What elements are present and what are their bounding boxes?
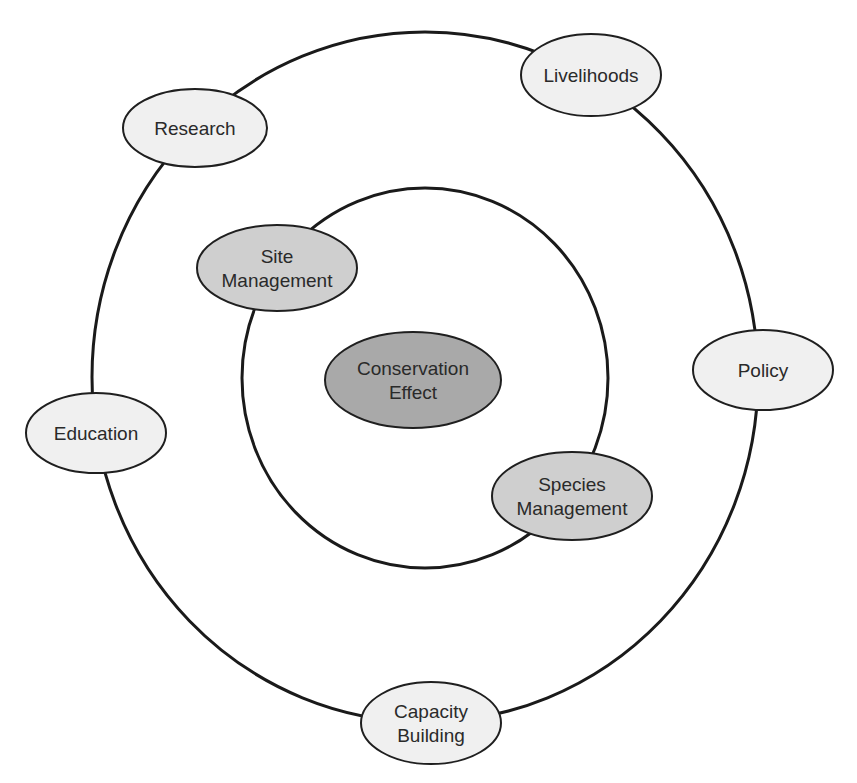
node-policy: Policy xyxy=(693,330,833,410)
site-management-label: Management xyxy=(222,270,334,291)
site-management-ellipse xyxy=(197,225,357,311)
node-conservation-effect: ConservationEffect xyxy=(325,332,501,428)
conservation-diagram: ResearchLivelihoodsPolicyEducationCapaci… xyxy=(0,0,857,783)
node-research: Research xyxy=(123,89,267,167)
livelihoods-label: Livelihoods xyxy=(543,65,638,86)
node-education: Education xyxy=(26,393,166,473)
species-management-label: Species xyxy=(538,474,606,495)
education-label: Education xyxy=(54,423,139,444)
research-label: Research xyxy=(154,118,235,139)
node-livelihoods: Livelihoods xyxy=(521,34,661,116)
capacity-building-label: Capacity xyxy=(394,701,468,722)
node-capacity-building: CapacityBuilding xyxy=(361,682,501,764)
policy-label: Policy xyxy=(738,360,789,381)
conservation-effect-label: Effect xyxy=(389,382,438,403)
species-management-ellipse xyxy=(492,452,652,540)
site-management-label: Site xyxy=(261,246,294,267)
nodes: ResearchLivelihoodsPolicyEducationCapaci… xyxy=(26,34,833,764)
conservation-effect-ellipse xyxy=(325,332,501,428)
species-management-label: Management xyxy=(517,498,629,519)
capacity-building-label: Building xyxy=(397,725,465,746)
capacity-building-ellipse xyxy=(361,682,501,764)
node-site-management: SiteManagement xyxy=(197,225,357,311)
conservation-effect-label: Conservation xyxy=(357,358,469,379)
node-species-management: SpeciesManagement xyxy=(492,452,652,540)
